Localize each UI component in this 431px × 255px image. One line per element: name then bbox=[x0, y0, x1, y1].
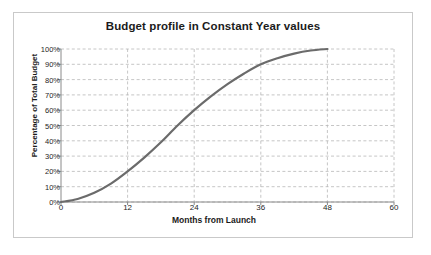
chart-frame: Budget profile in Constant Year values P… bbox=[13, 12, 413, 238]
y-tick-label: 20% bbox=[26, 167, 60, 176]
y-tick-label: 100% bbox=[26, 45, 60, 54]
y-tick-label: 40% bbox=[26, 136, 60, 145]
y-tick-label: 30% bbox=[26, 152, 60, 161]
y-tick-label: 70% bbox=[26, 90, 60, 99]
y-tick-label: 60% bbox=[26, 106, 60, 115]
x-tick-label: 12 bbox=[113, 203, 143, 212]
grid-lines bbox=[61, 49, 394, 202]
y-tick-label: 80% bbox=[26, 75, 60, 84]
plot-area: Percentage of Total Budget 0%10%20%30%40… bbox=[14, 13, 414, 239]
x-axis-title: Months from Launch bbox=[14, 215, 414, 225]
y-tick-label: 10% bbox=[26, 182, 60, 191]
x-tick-label: 24 bbox=[179, 203, 209, 212]
x-tick-label: 36 bbox=[246, 203, 276, 212]
y-tick-label: 90% bbox=[26, 60, 60, 69]
tick-marks bbox=[58, 49, 394, 205]
x-tick-label: 60 bbox=[379, 203, 409, 212]
x-tick-label: 0 bbox=[46, 203, 76, 212]
x-tick-label: 48 bbox=[312, 203, 342, 212]
y-tick-label: 50% bbox=[26, 121, 60, 130]
